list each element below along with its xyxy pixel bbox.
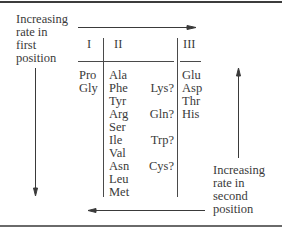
column-header-iii: III bbox=[183, 38, 196, 51]
column-ii-uncertain: Lys? Gln? Trp? Cys? bbox=[144, 69, 174, 173]
column-header-ii: II bbox=[114, 38, 122, 51]
label-line: position bbox=[16, 52, 68, 65]
first-position-label: Increasing rate in first position bbox=[16, 13, 68, 65]
amino-acid: Trp? bbox=[144, 134, 174, 147]
column-separator bbox=[103, 38, 104, 197]
column-i: Pro Gly bbox=[79, 69, 98, 95]
arrow-up-icon bbox=[237, 68, 241, 158]
second-position-label: Increasing rate in second position bbox=[213, 164, 265, 216]
header-underline bbox=[78, 61, 174, 62]
column-ii: Ala Phe Tyr Arg Ser Ile Val Asn Leu Met bbox=[109, 69, 129, 199]
amino-acid: Gly bbox=[79, 82, 98, 95]
column-header-i: I bbox=[87, 38, 91, 51]
header-underline bbox=[180, 61, 201, 62]
column-separator bbox=[177, 38, 178, 197]
amino-acid: Met bbox=[109, 186, 129, 199]
arrow-down-icon bbox=[34, 68, 38, 196]
amino-acid: Lys? bbox=[144, 82, 174, 95]
arrow-left-icon bbox=[88, 209, 205, 213]
amino-acid: His bbox=[182, 108, 202, 121]
arrow-right-icon bbox=[78, 26, 196, 30]
amino-acid: Gln? bbox=[144, 108, 174, 121]
label-line: position bbox=[213, 203, 265, 216]
amino-acid: Cys? bbox=[144, 160, 174, 173]
column-iii: Glu Asp Thr His bbox=[182, 69, 202, 121]
